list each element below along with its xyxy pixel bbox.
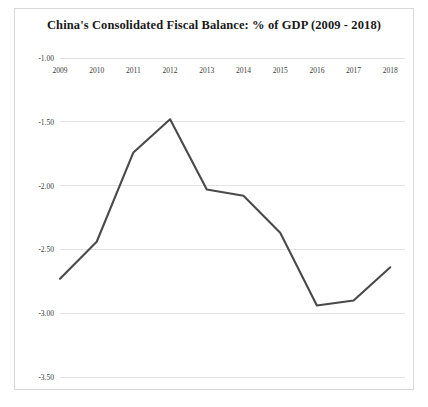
x-tick-label: 2016 — [297, 66, 337, 75]
x-tick-label: 2013 — [187, 66, 227, 75]
x-tick-label: 2011 — [113, 66, 153, 75]
x-tick-label: 2014 — [224, 66, 264, 75]
x-axis: 2009201020112012201320142015201620172018 — [0, 0, 428, 407]
x-tick-label: 2018 — [370, 66, 410, 75]
x-tick-label: 2017 — [334, 66, 374, 75]
x-tick-label: 2010 — [77, 66, 117, 75]
x-tick-label: 2009 — [40, 66, 80, 75]
x-tick-label: 2012 — [150, 66, 190, 75]
x-tick-label: 2015 — [260, 66, 300, 75]
